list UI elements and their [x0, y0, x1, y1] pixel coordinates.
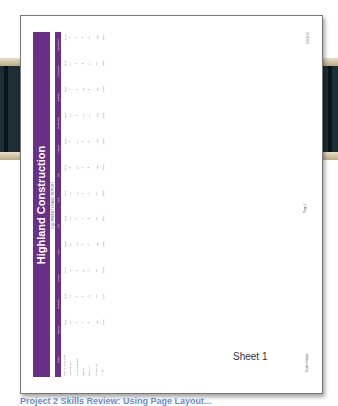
table-cell: 85	[95, 269, 98, 272]
table-cell: 95	[95, 295, 98, 298]
table-cell: 8	[76, 114, 77, 117]
table-cell: 2020	[101, 166, 107, 169]
table-cell: 2092	[101, 217, 107, 220]
table-cell: 20	[69, 243, 72, 246]
table-cell: 1985	[101, 192, 107, 195]
table-cell: 15	[69, 192, 72, 195]
table-cell: 14	[69, 217, 72, 220]
table-cell: 8	[82, 36, 83, 39]
table-cell: 12	[88, 114, 91, 117]
row-label: Repairs	[82, 368, 84, 376]
table-cell: 11	[69, 295, 72, 298]
table-cell: 6	[82, 243, 83, 246]
table-cell: 8	[76, 88, 77, 91]
footer-page-number: Page 1	[303, 203, 307, 213]
column-header: August	[55, 136, 61, 162]
column-header: March	[55, 265, 61, 291]
header-row: HoursJanuaryFebruaryMarchAprilMayJuneJul…	[55, 32, 61, 377]
table-cell: 12	[69, 114, 72, 117]
table-cell: 7	[82, 295, 83, 298]
table-cell: 13	[88, 295, 91, 298]
table-cell: 2005	[101, 62, 107, 65]
table-cell: 12	[88, 36, 91, 39]
table-cell: 6	[76, 217, 77, 220]
table-cell: 12	[82, 269, 85, 272]
table-cell: 2480	[63, 217, 69, 220]
row-label: Unavailable days	[76, 359, 78, 377]
table-cell: 1940	[101, 321, 107, 324]
sheet-label: Sheet 1	[233, 351, 267, 362]
table-cell: 10	[82, 114, 85, 117]
table-cell: 2400	[63, 243, 69, 246]
table-cell: 5	[76, 62, 77, 65]
usage-table: HoursJanuaryFebruaryMarchAprilMayJuneJul…	[55, 32, 107, 377]
table-cell: 3	[82, 321, 83, 324]
table-cell: 1945	[101, 88, 107, 91]
row-label: Available days	[69, 361, 71, 376]
table-cell: 6	[88, 243, 89, 246]
row-label: In use	[101, 370, 103, 376]
table-cell: 5	[69, 36, 70, 39]
column-header: May	[55, 213, 61, 239]
table-cell: 85	[95, 217, 98, 220]
footer-student-name: Student Name	[304, 353, 308, 372]
table-cell: 8	[82, 192, 83, 195]
table-cell: 2250	[101, 140, 107, 143]
title-band: Highland Construction	[33, 32, 49, 377]
column-header: June	[55, 188, 61, 214]
column-header: February	[55, 291, 61, 317]
table-cell: 2180	[101, 243, 107, 246]
table-cell: 15	[76, 192, 79, 195]
column-header: December	[55, 32, 61, 58]
row-label: Total hours available	[63, 355, 65, 376]
row-label: Unassigned	[95, 364, 97, 376]
table-cell: 12	[69, 62, 72, 65]
background-left-band	[0, 58, 22, 160]
table-cell: 9	[88, 192, 89, 195]
row-label: Servicing	[88, 367, 90, 376]
report-subtitle: EQUIPMENT USAGE REPORT	[51, 181, 55, 228]
report-title: Highland Construction	[35, 145, 47, 264]
table-cell: 120	[95, 140, 99, 143]
column-header: January	[55, 317, 61, 343]
table-cell: 2225	[101, 295, 107, 298]
table-cell: 10	[82, 88, 85, 91]
column-header: September	[55, 110, 61, 136]
table-cell: 2428	[63, 62, 69, 65]
table-cell: 2520	[63, 269, 69, 272]
table-cell: 8	[76, 269, 77, 272]
table-cell: 7	[76, 36, 77, 39]
table-cell: 2390	[63, 114, 69, 117]
table-cell: 2568	[63, 321, 69, 324]
table-cell: 128	[95, 36, 99, 39]
figure-caption: Project 2 Skills Review: Using Page Layo…	[20, 396, 212, 406]
table-cell: 4	[88, 321, 89, 324]
table-cell: 10	[76, 243, 79, 246]
spreadsheet-printout: Highland Construction EQUIPMENT USAGE RE…	[33, 32, 107, 377]
table-cell: 135	[95, 243, 99, 246]
column-header: April	[55, 239, 61, 265]
table-cell: 8	[82, 140, 83, 143]
column-header: October	[55, 84, 61, 110]
table-cell: 75	[95, 192, 98, 195]
table-cell: 8	[88, 88, 89, 91]
table-cell: 2328	[101, 269, 107, 272]
table-cell: 7	[69, 88, 70, 91]
table-cell: 8	[88, 217, 89, 220]
table-cell: 7	[88, 269, 89, 272]
table-cell: 9	[82, 217, 83, 220]
table-cell: 8	[69, 140, 70, 143]
table-cell: 8	[82, 62, 83, 65]
table-cell: 11	[88, 62, 91, 65]
column-header: July	[55, 162, 61, 188]
table-cell: 10	[76, 166, 79, 169]
table-cell: 8	[69, 166, 70, 169]
table-cell: 5	[88, 140, 89, 143]
printed-page: Highland Construction EQUIPMENT USAGE RE…	[20, 15, 323, 394]
column-header: November	[55, 58, 61, 84]
row-labels: Total hours availableAvailable daysUnava…	[61, 342, 107, 376]
table-cell: 2400	[63, 295, 69, 298]
table-cell: 113	[95, 88, 99, 91]
footer-date: 6/1/2012	[306, 32, 310, 44]
table-cell: 18	[69, 269, 72, 272]
